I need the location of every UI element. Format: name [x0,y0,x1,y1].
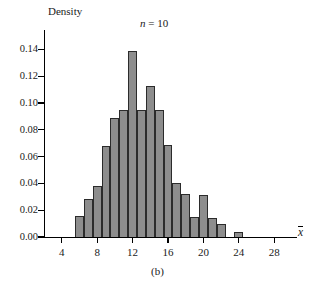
histogram-bar [137,110,146,237]
x-tick-label: 20 [188,247,218,258]
x-tick-label: 16 [153,247,183,258]
x-tick-label: 24 [224,247,254,258]
y-tick-label: 0.04 [0,178,38,188]
x-tick-mark [61,238,62,243]
x-tick-label: 4 [47,247,77,258]
histogram-bar [234,232,243,237]
annotation-value: 10 [157,17,168,29]
histogram-bar [199,195,208,237]
y-axis-title: Density [48,6,82,17]
y-tick-label: 0.02 [0,205,38,215]
x-tick-mark [132,238,133,243]
y-tick-label: 0.14 [0,44,38,54]
histogram-bar [146,86,155,237]
y-tick-label: 0.08 [0,125,38,135]
histogram-bar [208,218,217,237]
histogram-bar [119,110,128,237]
figure-caption: (b) [0,266,315,277]
x-tick-mark [238,238,239,243]
x-tick-mark [97,238,98,243]
histogram-bar [181,194,190,237]
y-tick-label: 0.00 [0,232,38,242]
histogram-bar [155,110,164,237]
y-tick-label: 0.12 [0,71,38,81]
x-axis-line [44,237,297,238]
histogram-bar [93,186,102,237]
x-tick-label: 8 [82,247,112,258]
y-tick-label: 0.10 [0,98,38,108]
histogram-bar [128,51,137,237]
x-tick-mark [167,238,168,243]
annotation-equals: = [146,17,158,29]
x-tick-mark [274,238,275,243]
histogram-bar [164,145,173,237]
plot-area [44,36,292,237]
histogram-bar [172,183,181,237]
x-tick-mark [203,238,204,243]
histogram-bar [217,224,226,237]
histogram-bar [102,146,111,237]
x-axis-title: x [298,226,303,238]
histogram-bar [110,118,119,237]
sample-size-annotation: n = 10 [140,18,168,29]
x-tick-label: 12 [118,247,148,258]
histogram-bar [75,216,84,237]
histogram-bar [84,199,93,237]
figure-histogram-density: Density n = 10 0.000.020.040.060.080.100… [0,0,315,286]
histogram-bar [190,217,199,237]
y-tick-label: 0.06 [0,152,38,162]
x-tick-label: 28 [259,247,289,258]
